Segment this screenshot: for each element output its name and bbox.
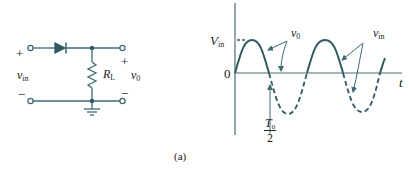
output-half-cycle-1 — [235, 40, 269, 73]
input-negative-half-cycle-2 — [343, 73, 380, 112]
input-terminal-top — [28, 45, 33, 50]
vin-annotation: vin — [373, 27, 385, 39]
peak-voltage-label: Vin — [210, 34, 224, 47]
input-terminal-bottom — [28, 98, 33, 103]
output-terminal-top — [120, 45, 125, 50]
output-minus-sign: − — [121, 87, 128, 100]
diode-icon — [55, 43, 66, 54]
resistor-label: RL — [103, 68, 115, 80]
input-voltage-label: vin — [17, 69, 29, 81]
output-half-cycle-2 — [307, 40, 343, 73]
input-plus-sign: + — [16, 47, 23, 60]
node-top — [90, 46, 94, 50]
resistor-icon — [88, 62, 96, 88]
output-voltage-label: v0 — [131, 69, 140, 81]
figure-caption: (a) — [174, 151, 186, 162]
time-axis-label: t — [399, 76, 403, 89]
output-half-cycle-3-partial — [380, 58, 385, 73]
origin-label: 0 — [224, 67, 231, 80]
half-wave-rectifier-figure — [0, 0, 409, 194]
v0-arrow-2 — [281, 41, 287, 71]
output-plus-sign: + — [121, 55, 128, 68]
node-bottom — [90, 99, 94, 103]
input-negative-half-cycle-1 — [269, 73, 307, 114]
waveform-plot — [235, 3, 402, 135]
v0-annotation: v0 — [291, 27, 300, 39]
input-minus-sign: − — [18, 88, 25, 101]
half-period-label: T0 2 — [264, 117, 276, 144]
